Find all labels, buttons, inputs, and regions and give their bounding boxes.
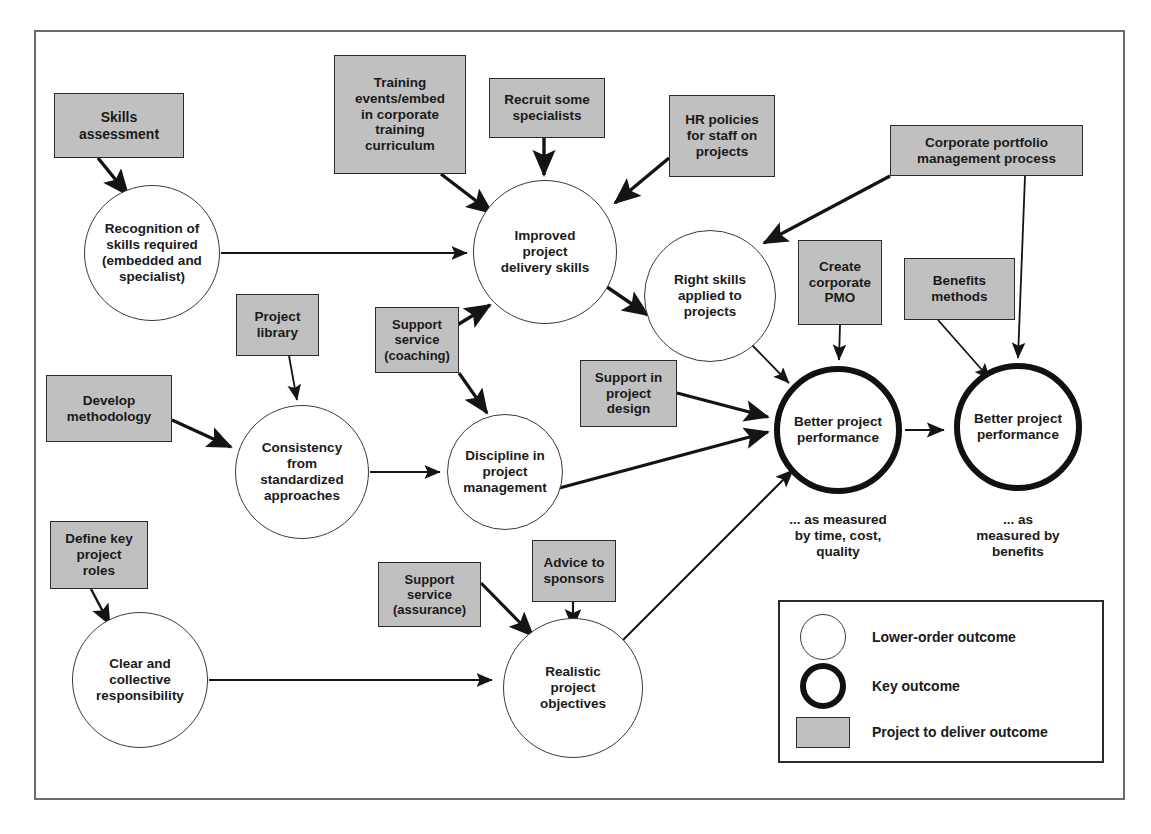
edge-project-library-to-consistency: [289, 356, 297, 400]
outcome-circle-consistency-standardized[interactable]: Consistency from standardized approaches: [235, 405, 369, 539]
key-outcome-circle-better-project-performance-time[interactable]: Better project performance: [774, 366, 902, 494]
key-outcome-icon: [796, 663, 850, 709]
project-box-benefits-methods[interactable]: Benefits methods: [904, 258, 1015, 320]
edge-right-skills-to-performance-time: [752, 345, 789, 383]
edge-support-coaching-to-discipline: [459, 373, 487, 413]
edge-skills-assessment-to-recognition: [98, 158, 128, 195]
legend-item-project-to-deliver-outcome: Project to deliver outcome: [796, 712, 1048, 752]
legend-item-key-outcome: Key outcome: [796, 661, 960, 711]
project-box-support-project-design[interactable]: Support in project design: [580, 360, 677, 427]
project-box-support-assurance[interactable]: Support service (assurance): [378, 562, 481, 627]
edge-develop-methodology-to-consistency: [172, 420, 231, 447]
diagram-canvas: Skills assessment Training events/embed …: [0, 0, 1151, 834]
project-box-training-events[interactable]: Training events/embed in corporate train…: [334, 55, 466, 174]
edge-training-events-to-improved-delivery: [441, 174, 492, 213]
caption-measured-by-time-cost-quality: ... as measured by time, cost, quality: [763, 512, 913, 561]
outcome-circle-discipline-project-management[interactable]: Discipline in project management: [447, 414, 563, 530]
outcome-circle-clear-collective-responsibility[interactable]: Clear and collective responsibility: [72, 612, 208, 748]
outcome-circle-recognition-of-skills[interactable]: Recognition of skills required (embedded…: [84, 185, 220, 321]
legend-label-key-outcome: Key outcome: [872, 678, 960, 694]
legend-label-project-to-deliver-outcome: Project to deliver outcome: [872, 724, 1048, 740]
outcome-circle-realistic-project-objectives[interactable]: Realistic project objectives: [503, 618, 643, 758]
edge-improved-delivery-to-right-skills: [604, 285, 648, 315]
project-box-support-coaching[interactable]: Support service (coaching): [375, 307, 459, 373]
caption-measured-by-benefits: ... as measured by benefits: [948, 512, 1088, 561]
project-box-create-corporate-pmo[interactable]: Create corporate PMO: [798, 240, 882, 325]
project-box-icon: [796, 717, 850, 748]
project-box-hr-policies[interactable]: HR policies for staff on projects: [669, 95, 775, 177]
edge-support-assurance-to-realistic-objectives: [481, 583, 533, 636]
edge-discipline-to-performance-time: [552, 432, 768, 490]
edge-benefits-methods-to-performance-benefits: [938, 320, 990, 379]
legend-label-lower-order-outcome: Lower-order outcome: [872, 629, 1016, 645]
edge-create-pmo-to-performance-time: [839, 325, 840, 360]
project-box-develop-methodology[interactable]: Develop methodology: [46, 375, 172, 442]
outcome-circle-improved-delivery-skills[interactable]: Improved project delivery skills: [473, 180, 617, 324]
key-outcome-circle-better-project-performance-benefits[interactable]: Better project performance: [954, 363, 1082, 491]
project-box-corporate-portfolio[interactable]: Corporate portfolio management process: [890, 125, 1083, 176]
project-box-recruit-specialists[interactable]: Recruit some specialists: [489, 78, 605, 138]
outcome-circle-right-skills-applied[interactable]: Right skills applied to projects: [644, 230, 776, 362]
project-box-define-key-roles[interactable]: Define key project roles: [50, 521, 148, 589]
edge-support-project-design-to-performance-time: [677, 393, 768, 417]
project-box-skills-assessment[interactable]: Skills assessment: [54, 93, 184, 158]
edge-hr-policies-to-improved-delivery: [615, 158, 669, 203]
legend-panel: Lower-order outcome Key outcome Project …: [778, 600, 1104, 763]
lower-order-outcome-icon: [796, 614, 850, 660]
project-box-project-library[interactable]: Project library: [236, 294, 319, 356]
edge-corporate-portfolio-to-right-skills: [764, 176, 890, 243]
edge-corporate-portfolio-to-performance-benefits: [1018, 176, 1025, 358]
legend-item-lower-order-outcome: Lower-order outcome: [796, 612, 1016, 662]
project-box-advice-to-sponsors[interactable]: Advice to sponsors: [532, 540, 616, 602]
